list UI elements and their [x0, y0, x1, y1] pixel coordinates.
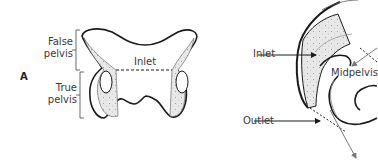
midpelvis-label: Midpelvis: [331, 67, 378, 78]
panel-letter-a: A: [20, 71, 28, 82]
outlet-label: Outlet: [243, 115, 274, 126]
inlet-label-sagittal: Inlet: [253, 48, 275, 59]
false-pelvis-bracket: [76, 30, 80, 70]
inlet-label-frontal: Inlet: [134, 56, 156, 67]
pelvic-axis-arrow: [330, 110, 356, 158]
frontal-pelvis-illustration: [72, 29, 197, 118]
false-pelvis-label-line2: pelvis: [36, 48, 73, 59]
sagittal-pelvis-illustration: [254, 0, 377, 158]
midpelvis-arrow: [352, 48, 377, 66]
true-pelvis-bracket: [80, 72, 84, 118]
true-pelvis-label-line1: True: [40, 82, 77, 93]
false-pelvis-label-line1: False: [36, 36, 73, 47]
true-pelvis-label-line2: pelvis: [40, 94, 77, 105]
